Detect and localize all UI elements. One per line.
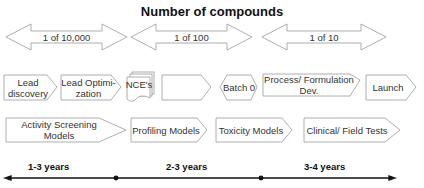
ratio-label-3: 1 of 10 (287, 31, 361, 43)
stage-label-blank (162, 75, 202, 100)
model-label-toxicity: Toxicity Models (216, 118, 286, 142)
ratio-label-2: 1 of 100 (156, 31, 227, 43)
model-label-clinical: Clinical/ Field Tests (304, 118, 390, 142)
timeline-left-arrowhead (5, 176, 11, 180)
ratio-label-1: 1 of 10,000 (31, 31, 102, 43)
timeline-right-arrowhead (389, 176, 395, 180)
stage-label-batch0: Batch 0 (222, 75, 256, 100)
stage-label-process: Process/ Formulation Dev. (263, 74, 355, 96)
stage-label-nces: NCE's (127, 77, 151, 91)
stage-label-launch: Launch (366, 75, 410, 100)
timeline-label-2: 2-3 years (166, 161, 207, 172)
model-label-profiling: Profiling Models (131, 118, 201, 142)
model-label-activity: Activity Screening Models (14, 118, 104, 142)
stage-label-lead-discovery: Lead discovery (4, 75, 52, 100)
timeline-marker-1 (114, 176, 118, 180)
stage-label-lead-optimization: Lead Optimi- zation (61, 75, 116, 100)
timeline-label-3: 3-4 years (304, 161, 345, 172)
timeline-marker-2 (259, 176, 263, 180)
timeline-label-1: 1-3 years (28, 161, 69, 172)
